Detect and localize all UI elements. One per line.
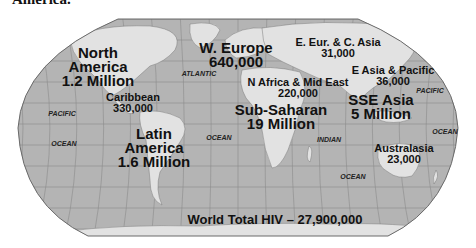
region-value: 5 Million	[348, 107, 413, 121]
ocean-label-atlantic: ATLANTIC	[182, 70, 216, 77]
ocean-label-ocean-east: OCEAN	[432, 128, 457, 135]
region-label-sub-saharan-africa: Sub-Saharan19 Million	[235, 103, 328, 131]
region-value: 31,000	[295, 48, 380, 59]
region-value: 36,000	[352, 76, 435, 87]
region-label-australasia: Australasia23,000	[374, 143, 433, 165]
ocean-label-ocean-indian: OCEAN	[340, 173, 365, 180]
ocean-label-indian: INDIAN	[317, 136, 341, 143]
ocean-label-ocean-atlantic-south: OCEAN	[206, 134, 231, 141]
region-label-south-southeast-asia: SSE Asia5 Million	[348, 93, 413, 121]
region-value: 220,000	[247, 88, 348, 99]
region-label-north-africa-middle-east: N Africa & Mid East220,000	[247, 77, 348, 99]
ocean-label-ocean-west: OCEAN	[51, 140, 76, 147]
ocean-label-pacific-west: PACIFIC	[48, 110, 75, 117]
region-value: 1.6 Million	[118, 155, 191, 169]
region-value: 640,000	[199, 55, 272, 69]
region-label-east-asia-pacific: E Asia & Pacific36,000	[352, 65, 435, 87]
region-value: 330,000	[106, 103, 160, 114]
region-label-caribbean: Caribbean330,000	[106, 92, 160, 114]
region-label-eastern-europe-central-asia: E. Eur. & C. Asia31,000	[295, 37, 380, 59]
region-label-latin-america: LatinAmerica1.6 Million	[118, 127, 191, 169]
region-label-north-america: NorthAmerica1.2 Million	[62, 46, 135, 88]
region-value: 23,000	[374, 154, 433, 165]
world-total-label: World Total HIV – 27,900,000	[187, 212, 362, 227]
region-label-western-europe: W. Europe640,000	[199, 41, 272, 69]
ocean-label-pacific-east: PACIFIC	[416, 87, 443, 94]
region-value: 1.2 Million	[62, 74, 135, 88]
region-value: 19 Million	[235, 117, 328, 131]
